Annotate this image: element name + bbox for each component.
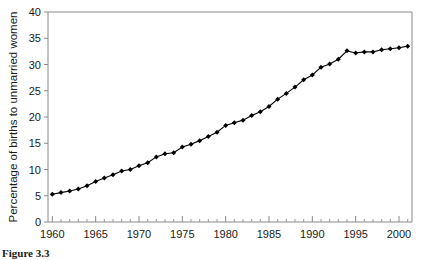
data-point bbox=[59, 190, 64, 195]
data-point bbox=[111, 172, 116, 177]
data-point bbox=[50, 192, 55, 197]
y-tick-label: 25 bbox=[29, 85, 41, 97]
data-point bbox=[397, 45, 402, 50]
x-tick-label: 1990 bbox=[300, 228, 324, 240]
x-tick-label: 1995 bbox=[343, 228, 367, 240]
plot-area: 0510152025303540196019651970197519801985… bbox=[7, 6, 412, 240]
y-tick-label: 5 bbox=[35, 190, 41, 202]
figure-caption: Figure 3.3 bbox=[2, 249, 49, 259]
x-tick-label: 2000 bbox=[387, 228, 411, 240]
figure-container: 0510152025303540196019651970197519801985… bbox=[0, 0, 425, 260]
x-tick-label: 1965 bbox=[83, 228, 107, 240]
data-point bbox=[102, 175, 107, 180]
data-point bbox=[189, 142, 194, 147]
data-point bbox=[232, 120, 237, 125]
data-point bbox=[353, 50, 358, 55]
data-point bbox=[119, 169, 124, 174]
data-point bbox=[327, 61, 332, 66]
y-axis-label: Percentage of births to unmarried women bbox=[7, 12, 19, 223]
y-tick-label: 0 bbox=[35, 216, 41, 228]
figure-caption-clip: Figure 3.3 bbox=[0, 249, 425, 260]
data-point bbox=[241, 118, 246, 123]
y-tick-label: 30 bbox=[29, 59, 41, 71]
x-tick-label: 1975 bbox=[170, 228, 194, 240]
data-point bbox=[76, 186, 81, 191]
data-point bbox=[379, 47, 384, 52]
y-tick-label: 20 bbox=[29, 111, 41, 123]
data-point bbox=[93, 179, 98, 184]
line-chart: 0510152025303540196019651970197519801985… bbox=[0, 0, 425, 250]
x-tick-label: 1970 bbox=[127, 228, 151, 240]
data-point bbox=[388, 46, 393, 51]
x-tick-label: 1960 bbox=[40, 228, 64, 240]
data-point bbox=[67, 189, 72, 194]
data-point bbox=[258, 109, 263, 114]
x-tick-label: 1980 bbox=[213, 228, 237, 240]
data-point bbox=[362, 49, 367, 54]
data-point bbox=[128, 167, 133, 172]
y-tick-label: 40 bbox=[29, 6, 41, 18]
data-point bbox=[206, 134, 211, 139]
x-tick-label: 1985 bbox=[257, 228, 281, 240]
y-tick-label: 35 bbox=[29, 32, 41, 44]
data-point bbox=[249, 113, 254, 118]
data-point bbox=[197, 138, 202, 143]
data-series-line bbox=[52, 46, 407, 194]
data-point bbox=[371, 49, 376, 54]
data-point bbox=[137, 163, 142, 168]
data-point bbox=[163, 151, 168, 156]
data-point bbox=[405, 44, 410, 49]
y-tick-label: 15 bbox=[29, 137, 41, 149]
y-tick-label: 10 bbox=[29, 164, 41, 176]
data-point bbox=[85, 183, 90, 188]
plot-frame bbox=[48, 12, 412, 222]
